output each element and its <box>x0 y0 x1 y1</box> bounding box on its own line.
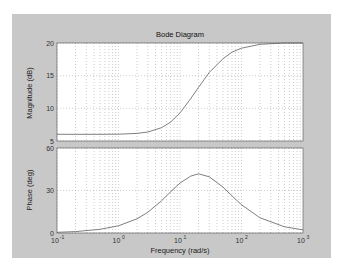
x-tick-label: 10 <box>51 237 59 244</box>
y-tick-label: 30 <box>46 187 54 194</box>
chart-title: Bode Diagram <box>156 30 204 39</box>
x-tick-exponent: -1 <box>60 234 65 240</box>
y-tick-label: 15 <box>46 72 54 79</box>
x-tick-exponent: 3 <box>307 234 310 240</box>
y-tick-label: 0 <box>50 230 54 237</box>
y-tick-label: 10 <box>46 105 54 112</box>
magnitude-ylabel: Magnitude (dB) <box>25 67 34 119</box>
y-tick-label: 20 <box>46 40 54 47</box>
phase-ylabel: Phase (deg) <box>25 169 34 210</box>
x-tick-exponent: 2 <box>245 234 248 240</box>
x-tick-label: 10 <box>236 237 244 244</box>
phase-axes: 0306010-1100101102103 <box>46 145 309 245</box>
x-tick-label: 10 <box>174 237 182 244</box>
x-tick-exponent: 1 <box>184 234 187 240</box>
x-tick-label: 10 <box>297 237 305 244</box>
magnitude-axes: 5101520 <box>46 40 303 145</box>
x-axis-label: Frequency (rad/s) <box>150 246 210 255</box>
x-tick-exponent: 0 <box>122 234 125 240</box>
y-tick-label: 60 <box>46 145 54 152</box>
bode-plot: Bode Diagram 5101520 0306010-11001011021… <box>12 14 331 258</box>
y-tick-label: 5 <box>50 138 54 145</box>
x-tick-label: 10 <box>113 237 121 244</box>
figure-window: Bode Diagram 5101520 0306010-11001011021… <box>12 14 331 258</box>
